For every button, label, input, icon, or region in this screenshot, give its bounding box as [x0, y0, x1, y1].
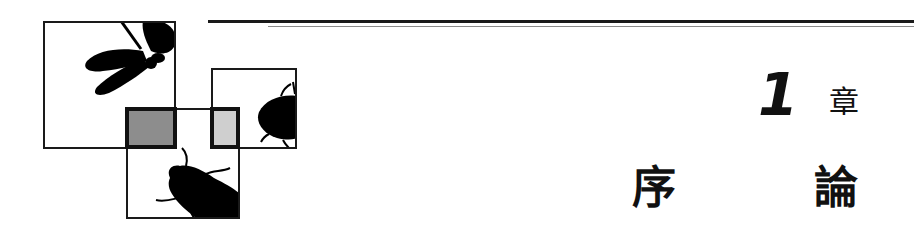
- accent-square-light: [210, 107, 240, 149]
- chapter-label: 章: [829, 86, 859, 118]
- chapter-title-char-1: 序: [632, 164, 676, 212]
- chapter-title-char-2: 論: [814, 164, 858, 212]
- chapter-number: 1: [758, 66, 798, 124]
- accent-square-dark: [125, 107, 177, 149]
- header-rule-thin: [268, 26, 914, 27]
- header-rule-thick: [208, 20, 914, 23]
